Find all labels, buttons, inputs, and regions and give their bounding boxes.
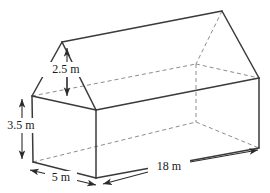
dimension-line-depth-left — [30, 170, 47, 174]
hidden-edges-group — [32, 11, 259, 162]
hidden-edge-bottom-back-long — [33, 122, 196, 162]
dimension-label-length: 18 m — [157, 159, 182, 173]
edge-back-gable-right — [222, 11, 259, 78]
dimension-label-depth: 5 m — [52, 170, 71, 184]
dimension-line-depth-right — [75, 180, 96, 185]
house-prism-diagram: 2.5 m 3.5 m 5 m 18 m — [0, 0, 270, 193]
dimension-label-wall-height: 3.5 m — [7, 118, 35, 132]
geometry-figure: 2.5 m 3.5 m 5 m 18 m — [0, 0, 270, 193]
hidden-edge-back-gable-slope — [196, 11, 222, 64]
visible-edges-group — [32, 11, 259, 178]
hidden-edge-top-back-short — [196, 64, 259, 78]
edge-roof-ridge — [62, 11, 222, 42]
dimension-depth: 5 m — [30, 170, 96, 185]
dimension-wall-height: 3.5 m — [0, 99, 44, 159]
hidden-edge-bottom-back-short — [196, 122, 259, 148]
dimension-line-length-left — [103, 172, 148, 184]
dimension-label-roof-height: 2.5 m — [52, 62, 80, 76]
edge-right-eave — [96, 78, 259, 110]
dimension-line-length-right — [190, 150, 258, 162]
edge-front-eave — [32, 96, 96, 110]
dimension-roof-height: 2.5 m — [42, 48, 90, 96]
dimension-length: 18 m — [103, 150, 258, 184]
